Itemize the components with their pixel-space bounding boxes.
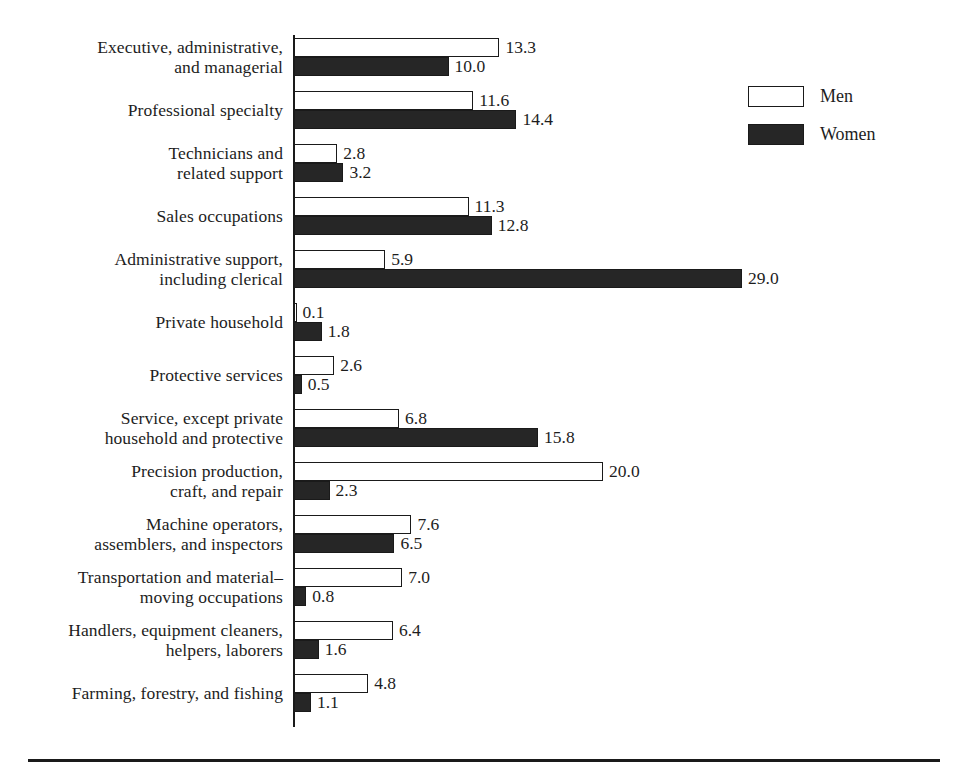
bar-value-label: 2.6 [340, 356, 362, 375]
legend-swatch-women-icon [748, 124, 804, 145]
bar-women [294, 57, 449, 76]
legend-swatch-men-icon [748, 86, 804, 107]
bar-men [294, 621, 393, 640]
bar-men [294, 91, 473, 110]
bar-value-label: 11.6 [479, 91, 509, 110]
bar-men [294, 144, 337, 163]
bar-men [294, 250, 385, 269]
bar-value-label: 11.3 [475, 197, 505, 216]
bar-value-label: 0.1 [303, 303, 325, 322]
bar-men [294, 568, 402, 587]
bar-women [294, 587, 306, 606]
bar-men [294, 409, 399, 428]
bar-women [294, 640, 319, 659]
bar-women [294, 322, 322, 341]
category-label: Technicians and related support [169, 143, 283, 184]
bar-value-label: 20.0 [609, 462, 640, 481]
bar-value-label: 3.2 [349, 163, 371, 182]
legend-item-men: Men [748, 86, 938, 124]
bottom-divider [28, 759, 940, 762]
bar-men [294, 303, 297, 322]
bar-men [294, 674, 368, 693]
bar-women [294, 534, 394, 553]
category-label: Administrative support, including cleric… [114, 249, 283, 290]
bar-value-label: 13.3 [505, 38, 536, 57]
bar-value-label: 5.9 [391, 250, 413, 269]
bar-men [294, 197, 469, 216]
bar-value-label: 15.8 [544, 428, 575, 447]
legend-item-women: Women [748, 124, 938, 162]
category-label: Machine operators, assemblers, and inspe… [94, 514, 283, 555]
bar-men [294, 515, 411, 534]
legend-label-men: Men [820, 84, 853, 108]
bar-value-label: 6.4 [399, 621, 421, 640]
bar-value-label: 29.0 [748, 269, 779, 288]
category-label: Handlers, equipment cleaners, helpers, l… [68, 620, 283, 661]
bar-value-label: 2.8 [343, 144, 365, 163]
bar-value-label: 4.8 [374, 674, 396, 693]
bar-value-label: 0.5 [308, 375, 330, 394]
bar-value-label: 1.1 [317, 693, 339, 712]
bar-value-label: 12.8 [498, 216, 529, 235]
chart-legend: Men Women [748, 86, 938, 162]
category-label: Private household [155, 312, 283, 333]
bar-women [294, 216, 492, 235]
category-label: Service, except private household and pr… [105, 408, 283, 449]
bar-value-label: 6.5 [400, 534, 422, 553]
bar-women [294, 428, 538, 447]
bar-value-label: 7.0 [408, 568, 430, 587]
bar-men [294, 356, 334, 375]
bar-women [294, 375, 302, 394]
bar-women [294, 163, 343, 182]
bar-value-label: 0.8 [312, 587, 334, 606]
bar-women [294, 481, 330, 500]
bar-value-label: 10.0 [455, 57, 486, 76]
bar-value-label: 1.8 [328, 322, 350, 341]
bar-women [294, 693, 311, 712]
bar-value-label: 1.6 [325, 640, 347, 659]
category-label: Professional specialty [128, 100, 283, 121]
category-label: Farming, forestry, and fishing [72, 683, 283, 704]
legend-label-women: Women [820, 122, 876, 146]
bar-value-label: 7.6 [417, 515, 439, 534]
category-label: Precision production, craft, and repair [131, 461, 283, 502]
category-label: Sales occupations [156, 206, 283, 227]
bar-men [294, 462, 603, 481]
bar-women [294, 269, 742, 288]
bar-value-label: 14.4 [522, 110, 553, 129]
bar-women [294, 110, 516, 129]
bar-value-label: 6.8 [405, 409, 427, 428]
category-label: Transportation and material– moving occu… [78, 567, 283, 608]
bar-men [294, 38, 499, 57]
category-label: Protective services [149, 365, 283, 386]
bar-value-label: 2.3 [336, 481, 358, 500]
bar-chart: Executive, administrative, and manageria… [0, 0, 961, 780]
category-label: Executive, administrative, and manageria… [97, 37, 283, 78]
